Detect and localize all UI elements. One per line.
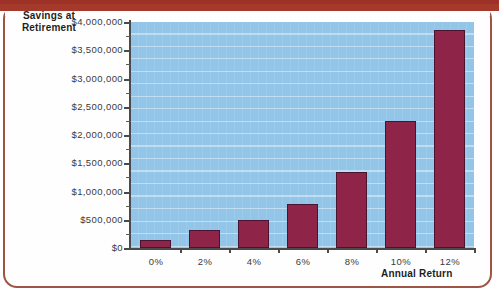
x-tick-mark [278,249,280,253]
x-tick-label: 6% [296,256,311,267]
y-tick-label-text: $500,000 [80,214,123,225]
bar-10pct [385,121,416,248]
x-tick-mark [474,249,476,253]
x-tick-label: 12% [440,256,461,267]
bar-12pct [434,30,465,248]
y-tick-major [124,50,131,52]
y-tick-label-text: $2,500,000 [71,101,123,112]
x-tick-mark [180,249,182,253]
y-tick-major [124,248,131,250]
x-tick-mark [229,249,231,253]
x-tick-mark [327,249,329,253]
y-tick-minor [126,64,131,65]
bar-6pct [287,204,318,248]
y-tick-major [124,79,131,81]
x-tick-label: 0% [149,256,164,267]
x-tick-label: 4% [247,256,262,267]
y-tick-minor [126,206,131,207]
y-tick-major [124,107,131,109]
y-tick-label-group: $0$500,000$1,000,000$1,500,000$2,000,000… [0,0,123,295]
y-tick-major [124,163,131,165]
bar-0pct [140,240,171,248]
y-tick-minor [126,93,131,94]
y-tick-major [124,22,131,24]
x-axis-title: Annual Return [381,268,453,279]
y-tick-minor [126,36,131,37]
x-tick-mark [376,249,378,253]
y-tick-minor [126,177,131,178]
bar-4pct [238,220,269,248]
bar-2pct [189,230,220,248]
plot-area [131,22,474,248]
x-tick-label: 2% [198,256,213,267]
y-tick-minor [126,149,131,150]
x-tick-mark [425,249,427,253]
x-tick-label: 8% [345,256,360,267]
y-tick-label-text: $2,000,000 [71,129,123,140]
y-tick-label-text: $0 [112,242,123,253]
y-tick-major [124,220,131,222]
y-tick-major [124,135,131,137]
x-tick-label: 10% [391,256,412,267]
y-tick-minor [126,234,131,235]
y-tick-label-text: $3,500,000 [71,44,123,55]
y-tick-major [124,192,131,194]
bar-8pct [336,172,367,248]
y-tick-label-text: $3,000,000 [71,73,123,84]
chart-screenshot: Savings at Retirement $0$500,000$1,000,0… [0,0,499,295]
y-tick-label-text: $1,500,000 [71,157,123,168]
y-tick-label-text: $1,000,000 [71,186,123,197]
y-tick-label-text: $4,000,000 [71,16,123,27]
y-tick-minor [126,121,131,122]
